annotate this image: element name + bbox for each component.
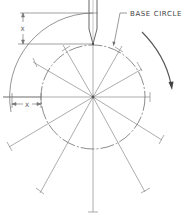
tick-marks <box>7 46 164 212</box>
cam-layout-diagram: X X BASE CIRCLE <box>0 0 188 220</box>
center-point <box>92 96 95 99</box>
knife-edge-follower <box>89 0 97 44</box>
radial-lines <box>3 45 162 212</box>
transfer-dim-label: X <box>25 101 29 108</box>
rise-dimension <box>18 13 98 44</box>
rotation-arrowhead <box>169 82 174 91</box>
rise-dim-label: X <box>21 25 25 32</box>
base-circle-leader <box>112 13 127 47</box>
rotation-arrow <box>142 32 171 84</box>
transfer-dimension <box>3 93 41 108</box>
base-circle-label: BASE CIRCLE <box>130 10 182 18</box>
